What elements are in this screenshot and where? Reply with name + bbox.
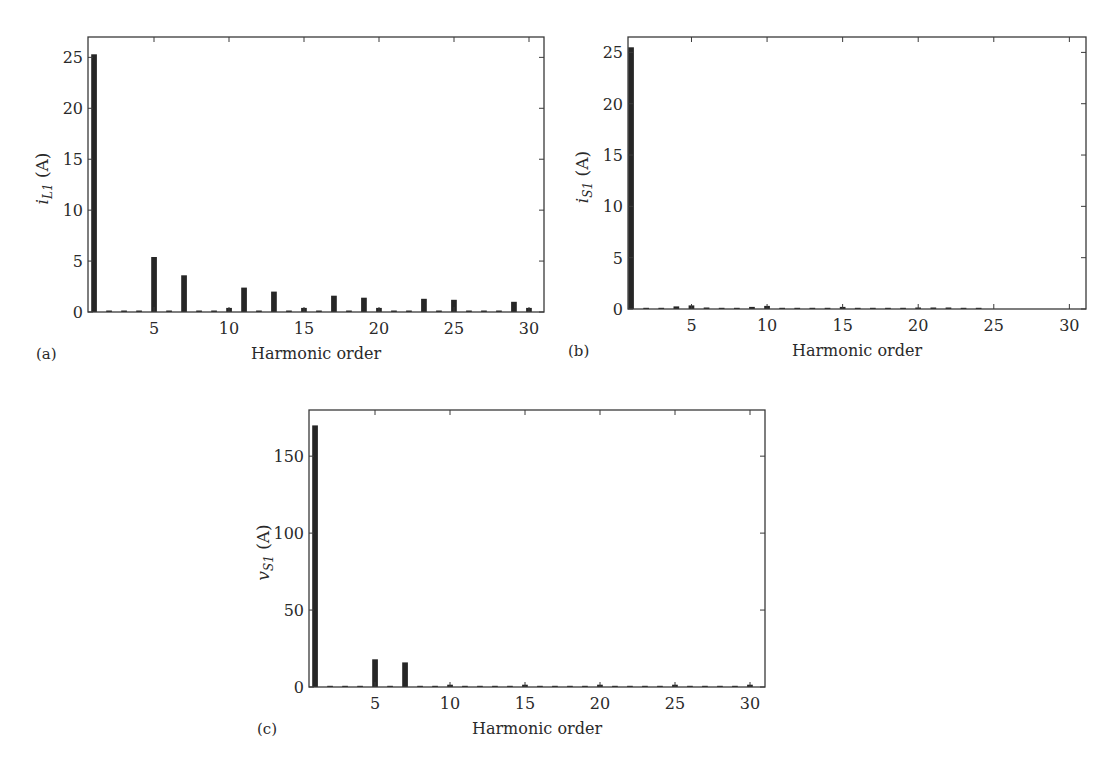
y-tick-label: 0 [613, 300, 623, 319]
y-tick-label: 25 [603, 43, 623, 62]
bar-harmonic-17 [331, 296, 337, 312]
y-tick-label: 0 [73, 303, 83, 322]
chart-c-svg: 51015202530050100150Harmonic order(c)vS1… [200, 390, 800, 760]
bar-series [312, 425, 753, 687]
x-tick-label: 5 [370, 694, 380, 713]
x-axis-label: Harmonic order [792, 341, 922, 360]
y-tick-label: 25 [63, 48, 83, 67]
y-tick-label: 10 [63, 201, 83, 220]
y-label-symbol: v [253, 571, 273, 581]
y-label-subscript: L1 [41, 183, 55, 200]
y-tick-label: 150 [273, 447, 304, 466]
x-axis-label: Harmonic order [472, 719, 602, 738]
y-tick-label: 5 [613, 249, 623, 268]
figure-caption-cutoff [0, 760, 1113, 774]
y-axis-label: iL1 (A) [32, 153, 55, 205]
bar-harmonic-7 [402, 662, 408, 687]
x-tick-label: 15 [515, 694, 535, 713]
x-tick-label: 25 [984, 316, 1004, 335]
y-label-subscript: S1 [581, 182, 595, 198]
x-tick-label: 10 [757, 316, 777, 335]
panel-label: (b) [568, 342, 589, 360]
bar-harmonic-1 [628, 47, 634, 309]
x-tick-label: 10 [219, 319, 239, 338]
chart-panel-b: 510152025300510152025Harmonic order(b)iS… [560, 0, 1113, 390]
x-tick-label: 30 [519, 319, 539, 338]
x-tick-label: 25 [444, 319, 464, 338]
y-label-unit: (A) [253, 524, 273, 555]
bar-harmonic-19 [361, 298, 367, 312]
bar-harmonic-29 [511, 302, 517, 312]
y-tick-label: 5 [73, 252, 83, 271]
y-tick-label: 50 [284, 601, 304, 620]
chart-panel-a: 510152025300510152025Harmonic order(a)iL… [0, 0, 560, 390]
panel-label: (c) [257, 720, 277, 738]
plot-frame [628, 37, 1086, 309]
bar-harmonic-7 [181, 275, 187, 312]
bar-harmonic-11 [241, 288, 247, 312]
bar-series [91, 54, 532, 312]
bar-harmonic-5 [151, 257, 157, 312]
bar-harmonic-23 [421, 299, 427, 312]
x-tick-label: 15 [294, 319, 314, 338]
y-tick-label: 20 [603, 95, 623, 114]
y-tick-label: 100 [273, 524, 304, 543]
x-tick-label: 20 [369, 319, 389, 338]
y-tick-label: 0 [294, 678, 304, 697]
x-tick-label: 5 [686, 316, 696, 335]
x-tick-label: 20 [908, 316, 928, 335]
y-label-unit: (A) [32, 153, 52, 184]
y-tick-label: 15 [63, 150, 83, 169]
x-axis-label: Harmonic order [251, 344, 381, 363]
bar-harmonic-1 [312, 425, 318, 687]
x-tick-label: 30 [1059, 316, 1079, 335]
y-axis-label: iS1 (A) [572, 151, 595, 203]
x-tick-label: 20 [590, 694, 610, 713]
x-tick-label: 30 [740, 694, 760, 713]
x-tick-label: 15 [832, 316, 852, 335]
y-axis-label: vS1 (A) [253, 524, 276, 580]
x-tick-label: 25 [665, 694, 685, 713]
y-label-subscript: S1 [262, 555, 276, 571]
chart-panel-c: 51015202530050100150Harmonic order(c)vS1… [200, 390, 800, 760]
x-tick-label: 5 [149, 319, 159, 338]
y-tick-label: 10 [603, 197, 623, 216]
panel-label: (a) [36, 345, 57, 363]
plot-frame [309, 410, 765, 687]
bar-harmonic-13 [271, 292, 277, 312]
y-tick-label: 15 [603, 146, 623, 165]
chart-a-svg: 510152025300510152025Harmonic order(a)iL… [0, 0, 560, 390]
y-tick-label: 20 [63, 99, 83, 118]
bar-series [628, 47, 981, 309]
bar-harmonic-1 [91, 54, 97, 312]
x-tick-label: 10 [440, 694, 460, 713]
y-label-unit: (A) [572, 151, 592, 182]
chart-b-svg: 510152025300510152025Harmonic order(b)iS… [560, 0, 1113, 390]
